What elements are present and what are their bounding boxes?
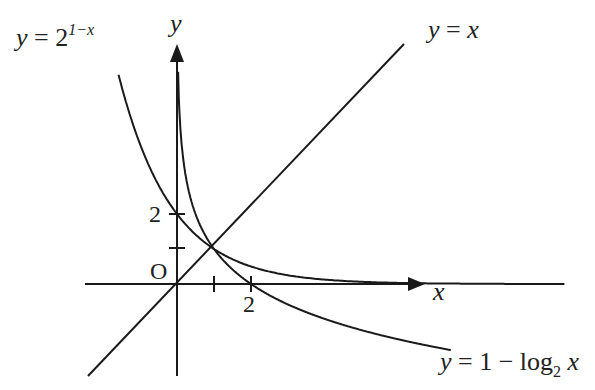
curve-identity-line (88, 44, 404, 376)
exp-y: y (13, 23, 28, 52)
y-axis-label: y (167, 9, 182, 38)
x-tick-label-2: 2 (243, 291, 255, 317)
graph-canvas: O x y 2 2 y = 21−x y = x y = 1 − log2 x (0, 0, 595, 390)
log-subscript: 2 (553, 363, 561, 380)
exp-superscript: 1−x (68, 21, 94, 38)
curve-logarithm (178, 72, 451, 350)
exp-eq: = 2 (28, 23, 69, 52)
log-curve-label: y = 1 − log2 x (437, 347, 580, 380)
exp-curve-label: y = 21−x (13, 21, 94, 52)
origin-label: O (150, 258, 167, 284)
y-tick-label-2: 2 (149, 201, 161, 227)
line-label: y = x (425, 15, 479, 44)
y-axis-arrow-icon (170, 44, 184, 62)
x-axis-label: x (432, 277, 445, 306)
